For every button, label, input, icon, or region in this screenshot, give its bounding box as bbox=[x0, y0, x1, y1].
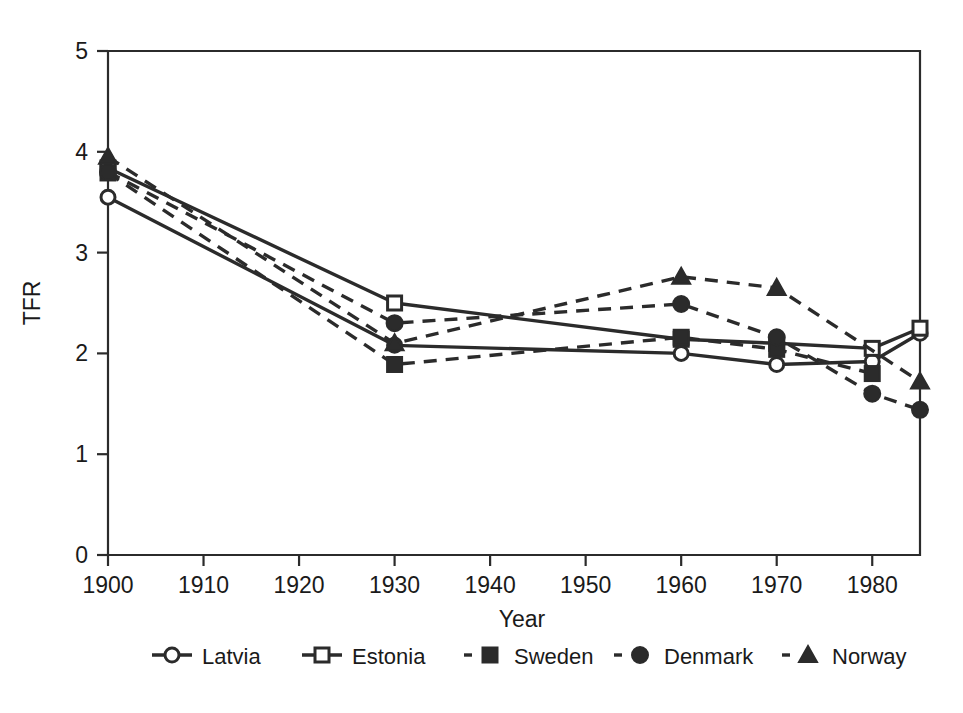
x-tick-label: 1940 bbox=[465, 572, 516, 598]
x-tick-label: 1980 bbox=[847, 572, 898, 598]
legend-marker-sweden bbox=[483, 648, 498, 663]
marker-sweden bbox=[387, 357, 402, 372]
legend-label-sweden: Sweden bbox=[514, 644, 594, 669]
marker-sweden bbox=[865, 366, 880, 381]
marker-denmark bbox=[864, 386, 880, 402]
marker-denmark bbox=[912, 402, 928, 418]
y-tick-label: 0 bbox=[75, 542, 88, 568]
marker-latvia bbox=[770, 357, 784, 371]
chart-background bbox=[0, 0, 963, 713]
chart-figure: 012345 190019101920193019401950196019701… bbox=[0, 0, 963, 713]
x-tick-label: 1920 bbox=[273, 572, 324, 598]
marker-denmark bbox=[100, 164, 116, 180]
legend-marker-denmark bbox=[632, 647, 648, 663]
marker-sweden bbox=[674, 330, 689, 345]
marker-estonia bbox=[388, 296, 402, 310]
marker-denmark bbox=[673, 296, 689, 312]
x-tick-label: 1900 bbox=[82, 572, 133, 598]
legend-label-latvia: Latvia bbox=[202, 644, 261, 669]
marker-latvia bbox=[101, 190, 115, 204]
legend-label-norway: Norway bbox=[832, 644, 907, 669]
marker-estonia bbox=[913, 321, 927, 335]
marker-latvia bbox=[674, 346, 688, 360]
legend-marker-latvia bbox=[165, 648, 179, 662]
y-tick-label: 2 bbox=[75, 340, 88, 366]
legend-marker-estonia bbox=[315, 648, 329, 662]
y-axis-title: TFR bbox=[19, 281, 45, 326]
tfr-line-chart: 012345 190019101920193019401950196019701… bbox=[0, 0, 963, 713]
x-tick-label: 1970 bbox=[751, 572, 802, 598]
y-tick-label: 3 bbox=[75, 240, 88, 266]
x-tick-label: 1930 bbox=[369, 572, 420, 598]
marker-denmark bbox=[387, 315, 403, 331]
legend-label-estonia: Estonia bbox=[352, 644, 426, 669]
y-tick-label: 4 bbox=[75, 139, 88, 165]
marker-denmark bbox=[769, 329, 785, 345]
legend-label-denmark: Denmark bbox=[664, 644, 754, 669]
y-tick-label: 5 bbox=[75, 38, 88, 64]
y-tick-label: 1 bbox=[75, 441, 88, 467]
x-axis-title: Year bbox=[499, 606, 546, 632]
x-tick-label: 1950 bbox=[560, 572, 611, 598]
x-tick-label: 1960 bbox=[656, 572, 707, 598]
x-tick-label: 1910 bbox=[178, 572, 229, 598]
